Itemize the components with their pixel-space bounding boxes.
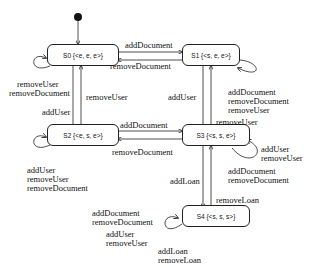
edge-label: addDocument <box>120 121 168 130</box>
loop-label-s1: removeUser <box>228 106 270 115</box>
state-diagram: S0 {<e, e, e>} S1 {<s, e, e>} S2 {<e, s,… <box>0 0 310 268</box>
state-s2: S2 {<e, s, e>} <box>47 124 119 146</box>
state-s4: S4 {<s, s, s>} <box>182 205 250 227</box>
loop-label-s4: removeLoan <box>158 256 201 265</box>
edge-label: removeDocument <box>112 148 173 157</box>
edge-label: addUser <box>42 108 70 117</box>
loop-label-s0: removeDocument <box>9 89 70 98</box>
state-s3: S3 {<s, s, e>} <box>182 124 250 146</box>
edge-label: addDocument <box>125 41 173 50</box>
edge-label: addLoan <box>170 177 200 186</box>
state-s1: S1 {<s, e, e>} <box>182 44 240 66</box>
edge-label: addUser <box>168 93 196 102</box>
loop-label-s4: removeUser <box>106 239 148 248</box>
loop-label-s3: removeUser <box>261 154 303 163</box>
initial-state-icon <box>74 13 82 21</box>
loop-label-s2: removeDocument <box>27 184 88 193</box>
loop-label-s3: removeDocument <box>228 176 289 185</box>
edge-label: removeLoan <box>216 196 259 205</box>
edge-label: removeDocument <box>110 62 171 71</box>
edge-label: removeUser <box>86 93 128 102</box>
edge-label: removeUser <box>216 118 258 127</box>
state-s0: S0 {<e, e, e>} <box>47 44 119 66</box>
loop-label-s4: removeDocument <box>92 218 153 227</box>
